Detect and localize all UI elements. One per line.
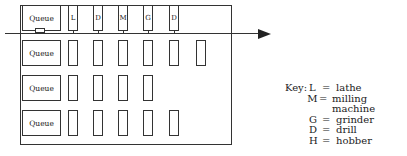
legend-eq: = (322, 125, 336, 136)
queue-label: Queue (29, 14, 54, 23)
machine-label: M (119, 14, 126, 22)
machine (93, 110, 103, 136)
machine-drill: D (93, 5, 103, 31)
material-flow-line (5, 33, 261, 34)
legend: Key:L=lathe M=milling machine G=grinder … (285, 83, 407, 146)
machine (196, 40, 206, 66)
machine-grinder: G (143, 5, 153, 31)
queue-box-row-3: Queue (22, 75, 61, 101)
machine-label: G (145, 14, 151, 22)
queue-outlet (35, 28, 45, 33)
machine (118, 75, 128, 101)
legend-meaning: milling machine (332, 94, 407, 115)
machine (169, 110, 179, 136)
machine-label: D (171, 14, 177, 22)
flow-arrow-icon (258, 29, 271, 39)
machine (143, 75, 153, 101)
machine (93, 75, 103, 101)
legend-title: Key: (285, 83, 309, 94)
machine (143, 40, 153, 66)
queue-label: Queue (29, 49, 54, 58)
machine (68, 75, 78, 101)
legend-symbol: D (309, 125, 322, 136)
legend-meaning: lathe (336, 83, 362, 94)
queue-label: Queue (29, 84, 54, 93)
legend-meaning: drill (336, 125, 357, 136)
machine-label: L (71, 14, 76, 22)
machine-drill-2: D (169, 5, 179, 31)
machine (118, 40, 128, 66)
legend-eq: = (322, 136, 336, 147)
legend-meaning: hobber (336, 136, 372, 147)
legend-eq: = (322, 83, 336, 94)
machine-lathe: L (68, 5, 78, 31)
machine-label: D (95, 14, 101, 22)
legend-symbol: M (307, 94, 319, 115)
machine (93, 40, 103, 66)
queue-box-row-2: Queue (22, 40, 61, 66)
machine (68, 40, 78, 66)
machine (169, 40, 179, 66)
legend-eq: = (319, 94, 332, 115)
legend-symbol: H (309, 136, 322, 147)
queue-label: Queue (29, 119, 54, 128)
machine-milling: M (118, 5, 128, 31)
legend-symbol: L (309, 83, 322, 94)
machine (68, 110, 78, 136)
queue-box-row-4: Queue (22, 110, 61, 136)
machine (143, 110, 153, 136)
machine (118, 110, 128, 136)
